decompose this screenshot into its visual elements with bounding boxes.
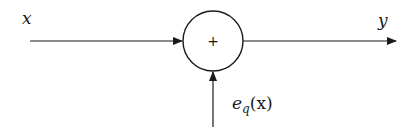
noise-label-base: e bbox=[232, 93, 242, 113]
noise-label-arg: (x) bbox=[250, 93, 273, 113]
input-label: x bbox=[22, 8, 32, 28]
block-diagram: x + y eq(x) bbox=[0, 0, 410, 131]
output-label: y bbox=[377, 10, 388, 30]
noise-label: eq(x) bbox=[232, 93, 273, 116]
plus-symbol: + bbox=[207, 33, 219, 49]
summing-junction: + bbox=[183, 11, 243, 71]
